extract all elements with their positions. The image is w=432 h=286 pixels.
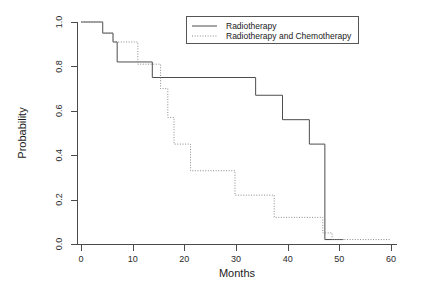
x-tick-label: 60 (386, 254, 396, 264)
x-axis-title: Months (219, 267, 256, 279)
y-axis-title: Probability (16, 107, 28, 159)
legend-label-radiotherapy: Radiotherapy (226, 21, 277, 31)
chart-legend: Radiotherapy Radiotherapy and Chemothera… (187, 17, 359, 44)
y-axis-ticks: 0.00.20.40.60.81.0 (54, 16, 78, 251)
x-tick-label: 50 (334, 254, 344, 264)
legend-label-radiotherapy-and-chemotherapy: Radiotherapy and Chemotherapy (226, 31, 352, 41)
y-tick-label: 0.0 (54, 238, 64, 251)
y-tick-label: 0.2 (54, 193, 64, 206)
y-tick-label: 1.0 (54, 16, 64, 29)
x-tick-label: 40 (283, 254, 293, 264)
series-line-radiotherapy (81, 22, 343, 240)
chart-series-group (81, 22, 391, 240)
x-tick-label: 0 (78, 254, 83, 264)
series-line-radiotherapy-and-chemotherapy (81, 22, 391, 240)
survival-curve-chart: 0.00.20.40.60.81.0 0102030405060 Months … (0, 0, 432, 286)
x-tick-label: 10 (128, 254, 138, 264)
y-tick-label: 0.4 (54, 149, 64, 162)
y-tick-label: 0.8 (54, 60, 64, 73)
x-axis-ticks: 0102030405060 (78, 245, 396, 265)
y-tick-label: 0.6 (54, 105, 64, 118)
chart-canvas: 0.00.20.40.60.81.0 0102030405060 Months … (0, 0, 432, 286)
x-tick-label: 20 (179, 254, 189, 264)
x-tick-label: 30 (231, 254, 241, 264)
